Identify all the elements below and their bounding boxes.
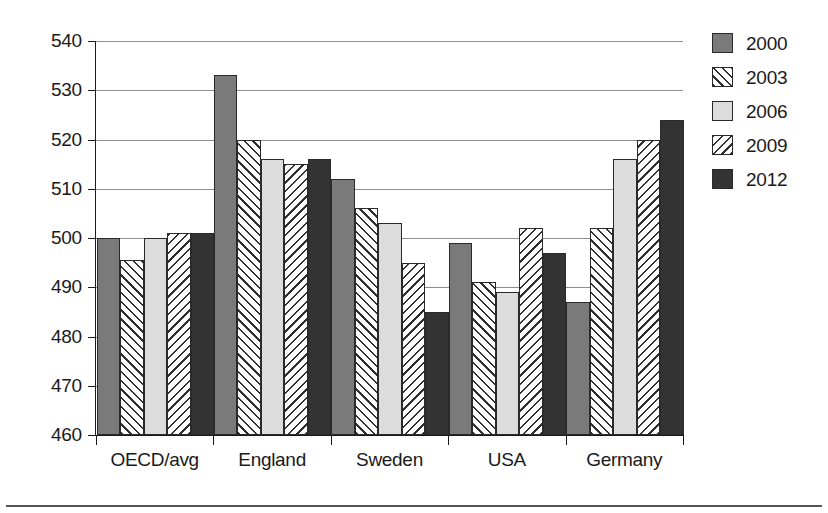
y-axis-tick-label: 500 [22,228,82,247]
legend-swatch-icon [712,67,733,87]
legend-item-2006: 2006 [712,94,822,128]
legend-label: 2006 [746,102,787,121]
y-axis-tick-label: 490 [22,277,82,296]
legend-label: 2012 [746,170,787,189]
bar-2009-england [284,164,308,435]
x-axis-category-label: Sweden [331,449,448,471]
y-axis-tick-label: 470 [22,376,82,395]
x-axis-tick [96,436,97,445]
gridline [96,189,683,190]
x-axis-tick [331,436,332,445]
x-axis-tick [213,436,214,445]
legend-swatch-icon [712,33,733,53]
y-axis-tick [88,287,96,288]
x-axis-tick [448,436,449,445]
y-axis-tick [88,140,96,141]
bar-2003-sweden [355,208,379,435]
x-axis-tick [683,436,684,445]
legend-item-2000: 2000 [712,26,822,60]
bar-2000-england [214,75,238,435]
legend-swatch-icon [712,101,733,121]
bar-2003-germany [590,228,614,435]
bar-2003-oecdavg [120,260,144,435]
x-axis-tick [566,436,567,445]
bar-chart-figure: 460470480490500510520530540 OECD/avgEngl… [0,0,828,513]
bar-2009-oecdavg [167,233,191,435]
y-axis-tick [88,435,96,436]
x-axis-category-label: OECD/avg [96,449,213,471]
y-axis-tick-label: 540 [22,31,82,50]
plot-area [96,41,683,435]
bottom-divider [6,505,822,507]
bar-2009-sweden [402,263,426,435]
legend-swatch-icon [712,169,733,189]
gridline [96,90,683,91]
y-axis-tick [88,386,96,387]
bar-2006-usa [496,292,520,435]
bar-2000-germany [566,302,590,435]
bar-2006-oecdavg [144,238,168,435]
bar-2006-england [261,159,285,435]
legend-swatch-icon [712,135,733,155]
legend-label: 2000 [746,34,787,53]
bar-2012-england [308,159,332,435]
gridline [96,41,683,42]
bar-2003-usa [472,282,496,435]
y-axis-tick-label: 510 [22,179,82,198]
legend-label: 2003 [746,68,787,87]
y-axis-tick [88,41,96,42]
y-axis-tick [88,337,96,338]
bar-2000-oecdavg [97,238,121,435]
bar-2012-usa [543,253,567,435]
legend-item-2012: 2012 [712,162,822,196]
x-axis-category-label: England [213,449,330,471]
y-axis-tick-label: 480 [22,327,82,346]
bar-2012-oecdavg [191,233,215,435]
bar-2006-germany [613,159,637,435]
x-axis-line [95,435,684,436]
y-axis-tick-label: 520 [22,130,82,149]
bar-2009-germany [637,140,661,436]
legend-item-2003: 2003 [712,60,822,94]
legend-label: 2009 [746,136,787,155]
chart-legend: 20002003200620092012 [712,26,822,196]
bar-2000-usa [449,243,473,435]
bar-2000-sweden [331,179,355,435]
bar-2006-sweden [378,223,402,435]
bar-2003-england [237,140,261,436]
y-axis-tick [88,238,96,239]
y-axis-tick [88,189,96,190]
gridline [96,140,683,141]
y-axis-tick-label: 530 [22,80,82,99]
bar-2012-sweden [425,312,449,435]
x-axis-category-label: USA [448,449,565,471]
legend-item-2009: 2009 [712,128,822,162]
x-axis-category-label: Germany [566,449,683,471]
bar-2012-germany [660,120,684,435]
y-axis-tick-label: 460 [22,425,82,444]
y-axis-tick [88,90,96,91]
bar-2009-usa [519,228,543,435]
